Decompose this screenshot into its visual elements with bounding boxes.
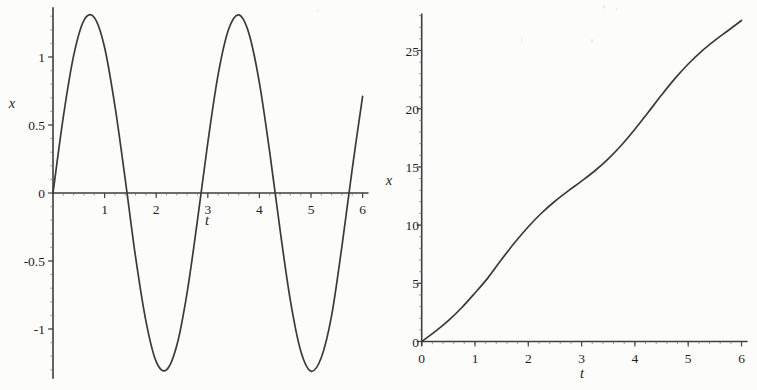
- right-plot-x-tick-label: 2: [525, 351, 532, 366]
- right-plot-x-tick-label: 5: [685, 351, 692, 366]
- right-plot-x-tick-label: 3: [578, 351, 585, 366]
- right-plot-y-tick-label: 25: [406, 44, 420, 59]
- right-plot-x-tick-label: 4: [632, 351, 639, 366]
- right-plot-xlabel: t: [580, 365, 585, 381]
- right-plot-x-tick-label: 6: [738, 351, 745, 366]
- left-plot-x-tick-label: 1: [101, 202, 108, 217]
- right-plot-y-tick-label: 15: [406, 160, 420, 175]
- right-plot-major-ticks: [417, 51, 742, 347]
- left-plot-y-tick-label: 0: [38, 186, 45, 201]
- right-plot-x-tick-label: 0: [418, 351, 425, 366]
- right-plot: 01234560510152025tx: [385, 14, 747, 381]
- left-plot-y-tick-label: 0.5: [28, 118, 45, 133]
- right-plot-ylabel: x: [385, 172, 393, 188]
- right-plot-x-tick-label: 1: [472, 351, 479, 366]
- scan-noise-speckles: [317, 6, 618, 43]
- dual-plot-figure: 12345610.50-0.5-1tx01234560510152025tx: [0, 0, 757, 390]
- right-plot-y-tick-label: 0: [412, 335, 419, 350]
- left-plot-ylabel: x: [8, 95, 16, 111]
- right-plot-y-tick-label: 5: [412, 276, 419, 291]
- left-plot-x-tick-label: 5: [308, 202, 315, 217]
- left-plot-x-tick-label: 2: [153, 202, 160, 217]
- left-plot-y-tick-label: 1: [38, 50, 45, 65]
- left-plot: 12345610.50-0.5-1tx: [8, 8, 368, 378]
- left-plot-x-tick-label: 4: [256, 202, 263, 217]
- screenshot-root: 12345610.50-0.5-1tx01234560510152025tx: [0, 0, 757, 390]
- left-plot-y-tick-label: -1: [34, 322, 45, 337]
- left-plot-y-tick-label: -0.5: [24, 254, 46, 269]
- right-plot-y-tick-label: 10: [406, 218, 420, 233]
- left-plot-x-tick-label: 6: [359, 202, 366, 217]
- left-plot-axes: [53, 8, 368, 378]
- right-plot-y-tick-label: 20: [406, 102, 420, 117]
- right-plot-curve: [422, 20, 742, 341]
- right-plot-minor-ticks: [419, 16, 741, 345]
